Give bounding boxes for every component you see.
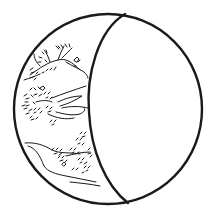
sphere-illustration: [0, 0, 214, 218]
